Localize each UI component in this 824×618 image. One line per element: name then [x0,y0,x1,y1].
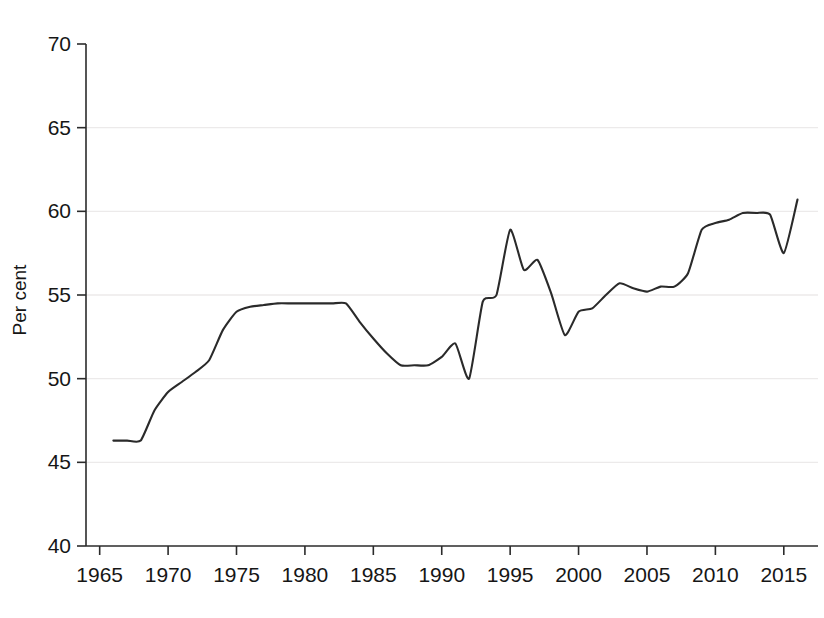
chart-container: 40455055606570 1965197019751980198519901… [0,0,824,618]
x-tick-group: 1965197019751980198519901995200020052010… [76,546,807,586]
x-tick-label-1990: 1990 [418,563,465,586]
x-tick-label-2000: 2000 [555,563,602,586]
y-tick-label-60: 60 [48,199,71,222]
x-tick-label-1980: 1980 [282,563,329,586]
y-tick-label-45: 45 [48,450,71,473]
x-tick-label-2005: 2005 [624,563,671,586]
y-tick-label-55: 55 [48,283,71,306]
gridlines-group [86,128,818,463]
y-tick-label-70: 70 [48,32,71,55]
data-line-per-cent [113,200,797,442]
y-tick-label-65: 65 [48,116,71,139]
data-series-group [113,200,797,442]
line-chart: 40455055606570 1965197019751980198519901… [0,0,824,618]
y-tick-group: 40455055606570 [48,32,86,557]
y-tick-label-40: 40 [48,534,71,557]
x-axis: 1965197019751980198519901995200020052010… [76,546,818,586]
y-tick-label-50: 50 [48,367,71,390]
y-axis-title: Per cent [9,264,30,335]
y-axis: 40455055606570 [48,32,86,557]
x-tick-label-1965: 1965 [76,563,123,586]
x-tick-label-1975: 1975 [213,563,260,586]
x-tick-label-1995: 1995 [487,563,534,586]
x-tick-label-1985: 1985 [350,563,397,586]
x-tick-label-1970: 1970 [145,563,192,586]
x-tick-label-2010: 2010 [692,563,739,586]
x-tick-label-2015: 2015 [760,563,807,586]
